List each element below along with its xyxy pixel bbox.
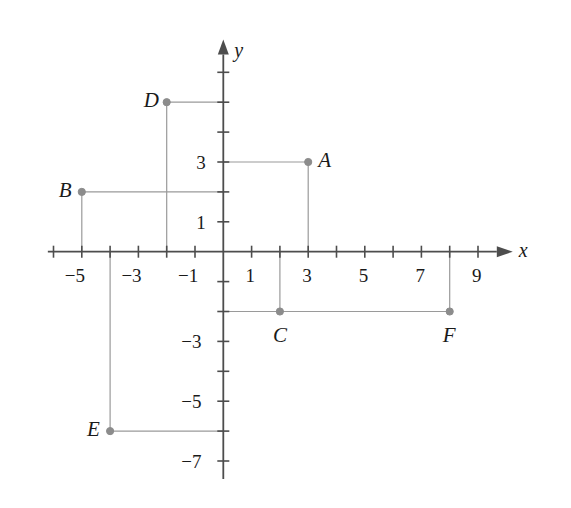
data-point-a[interactable] (305, 158, 312, 165)
y-axis-arrowhead (218, 39, 229, 54)
x-axis-arrowhead (497, 246, 513, 257)
data-point-b[interactable] (78, 188, 85, 195)
data-point-f[interactable] (446, 308, 453, 315)
point-label-c: C (273, 325, 287, 346)
point-label-f: F (443, 325, 456, 346)
x-tick-label-neg5: −5 (65, 266, 85, 285)
coordinate-plane-figure: −5−3−11357931−3−5−7xyABCDEF (0, 0, 571, 508)
data-point-e[interactable] (107, 428, 114, 435)
y-tick-label-neg5: −5 (181, 392, 201, 411)
x-tick-label-3: 3 (302, 266, 312, 285)
point-label-a: A (318, 150, 331, 171)
coordinate-plane-svg (0, 0, 571, 508)
x-tick-label-7: 7 (415, 266, 425, 285)
x-tick-label-neg3: −3 (121, 266, 141, 285)
y-tick-label-neg7: −7 (181, 452, 201, 471)
y-tick-label-3: 3 (196, 153, 206, 172)
point-label-e: E (87, 419, 100, 440)
y-tick-label-neg3: −3 (181, 332, 201, 351)
y-axis-label: y (234, 40, 243, 60)
point-label-b: B (59, 180, 72, 201)
data-point-c[interactable] (276, 308, 283, 315)
x-axis-label: x (519, 240, 528, 260)
x-tick-label-5: 5 (359, 266, 369, 285)
x-tick-label-9: 9 (472, 266, 482, 285)
x-tick-label-1: 1 (246, 266, 256, 285)
point-label-d: D (144, 90, 159, 111)
data-point-d[interactable] (163, 99, 170, 106)
x-tick-label-neg1: −1 (178, 266, 198, 285)
y-tick-label-1: 1 (196, 213, 206, 232)
